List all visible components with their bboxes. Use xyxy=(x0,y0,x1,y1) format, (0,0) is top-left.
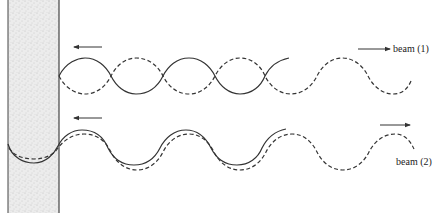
beam-1-label: beam (1) xyxy=(393,43,429,55)
beam-1: beam (1) xyxy=(59,43,429,94)
beam-2-dashed-wave xyxy=(9,134,414,170)
beam-2-label: beam (2) xyxy=(396,156,432,168)
wall xyxy=(8,0,59,213)
wall-fill xyxy=(8,0,59,213)
beam-reflection-diagram: beam (1) beam (2) xyxy=(0,0,433,213)
beam-2: beam (2) xyxy=(8,118,432,170)
beam-1-dashed-wave xyxy=(59,58,411,94)
